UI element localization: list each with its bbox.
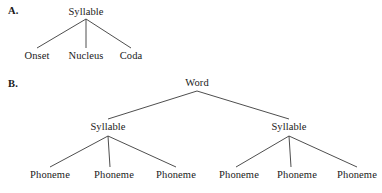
edge-syllable-left-to-phoneme-2 <box>108 136 110 167</box>
node-phoneme-2: Phoneme <box>94 169 134 181</box>
node-phoneme-4: Phoneme <box>219 169 259 181</box>
node-syllable-b-left: Syllable <box>90 121 125 133</box>
node-phoneme-3: Phoneme <box>156 169 196 181</box>
node-nucleus: Nucleus <box>68 50 103 62</box>
panel-a-edges <box>37 19 131 48</box>
node-syllable-a-root: Syllable <box>68 6 103 18</box>
panel-label-b: B. <box>8 78 18 89</box>
edge-syllable-right-to-phoneme-6 <box>289 136 357 167</box>
panel-label-a: A. <box>8 5 19 16</box>
edge-syllable-to-coda <box>86 19 131 48</box>
edge-syllable-right-to-phoneme-4 <box>236 136 289 167</box>
edge-word-to-syllable-left <box>108 91 197 119</box>
syllable-structure-figure: A. Syllable Onset Nucleus Coda B. Word S… <box>0 0 382 193</box>
node-syllable-b-right: Syllable <box>271 121 306 133</box>
node-coda: Coda <box>120 50 143 62</box>
panel-b-edges-syllable-left <box>50 136 176 167</box>
edge-syllable-left-to-phoneme-1 <box>50 136 108 167</box>
panel-b-edges-syllable-right <box>236 136 357 167</box>
node-onset: Onset <box>25 50 50 62</box>
edge-syllable-to-onset <box>37 19 86 48</box>
node-phoneme-6: Phoneme <box>337 169 377 181</box>
edge-syllable-right-to-phoneme-5 <box>289 136 291 167</box>
node-phoneme-1: Phoneme <box>30 169 70 181</box>
edge-word-to-syllable-right <box>197 91 289 119</box>
tree-edges-layer <box>0 0 382 193</box>
node-word-root: Word <box>185 77 208 89</box>
edge-syllable-left-to-phoneme-3 <box>108 136 176 167</box>
panel-b-edges-word <box>108 91 289 119</box>
node-phoneme-5: Phoneme <box>277 169 317 181</box>
